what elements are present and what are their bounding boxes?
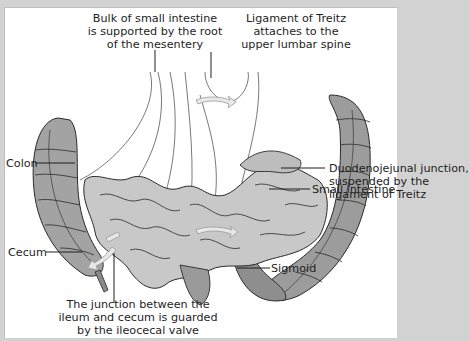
appendix: [95, 270, 108, 292]
label-line: Bulk of small intestine: [60, 12, 250, 25]
label-line: Ligament of Treitz: [226, 12, 366, 25]
label-line: is supported by the root: [60, 25, 250, 38]
ileocecal-label: The junction between the ileum and cecum…: [40, 298, 236, 337]
arrow-icon: [196, 96, 236, 108]
mesentery-label: Bulk of small intestine is supported by …: [60, 12, 250, 51]
label-line: The junction between the: [40, 298, 236, 311]
label-line: ileum and cecum is guarded: [40, 311, 236, 324]
label-line: Duodenojejunal junction,: [329, 162, 469, 175]
cecum-label: Cecum: [8, 246, 47, 259]
small-intestine-label: Small intestine: [312, 183, 395, 196]
label-line: by the ileocecal valve: [40, 324, 236, 337]
colon-label: Colon: [6, 157, 38, 170]
label-line: of the mesentery: [60, 38, 250, 51]
treitz-label: Ligament of Treitz attaches to the upper…: [226, 12, 366, 51]
label-line: attaches to the: [226, 25, 366, 38]
label-line: upper lumbar spine: [226, 38, 366, 51]
sigmoid-label: Sigmoid: [271, 262, 316, 275]
